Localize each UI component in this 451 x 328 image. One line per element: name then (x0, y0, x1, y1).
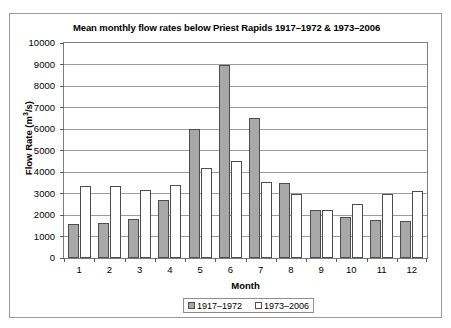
x-axis-tick-label-3: 3 (125, 264, 155, 275)
x-axis-tick-label-8: 8 (276, 264, 306, 275)
legend-item-1973-2006: 1973–2006 (255, 301, 309, 311)
x-axis-tick-mark (306, 258, 307, 262)
x-axis-tick-label-7: 7 (246, 264, 276, 275)
x-axis-tick-mark (125, 258, 126, 262)
bar-month-9-series-2 (322, 210, 333, 258)
x-axis-tick-label-5: 5 (185, 264, 215, 275)
y-axis-tick-mark (60, 236, 64, 237)
y-axis-tick-mark (60, 86, 64, 87)
bar-month-11-series-1 (370, 220, 381, 258)
bar-month-2-series-2 (110, 186, 121, 258)
chart-figure: Mean monthly flow rates below Priest Rap… (9, 13, 442, 318)
y-axis-tick-mark (60, 215, 64, 216)
y-axis-tick-mark (60, 129, 64, 130)
y-axis-tick-label: 5000 (7, 146, 55, 156)
bar-month-3-series-1 (128, 219, 139, 258)
legend-swatch-icon-1973-2006 (255, 302, 262, 309)
x-axis-tick-mark (276, 258, 277, 262)
bar-month-4-series-1 (158, 200, 169, 258)
y-axis-label-exponent: 3 (22, 112, 29, 116)
x-axis-tick-label-12: 12 (397, 264, 427, 275)
y-axis-tick-label: 2000 (7, 210, 55, 220)
bar-month-9-series-1 (310, 210, 321, 258)
bar-month-10-series-1 (340, 217, 351, 258)
bar-month-3-series-2 (140, 190, 151, 258)
x-axis-tick-mark (155, 258, 156, 262)
y-axis-tick-mark (60, 150, 64, 151)
legend-label-1917-1972: 1917–1972 (197, 301, 242, 311)
y-axis-tick-label: 1000 (7, 232, 55, 242)
gridline (64, 150, 427, 151)
x-axis-label: Month (63, 280, 428, 291)
gridline (64, 129, 427, 130)
chart-legend: 1917–1972 1973–2006 (183, 298, 314, 313)
y-axis-tick-label: 9000 (7, 60, 55, 70)
bar-month-8-series-1 (279, 183, 290, 258)
bar-month-1-series-1 (68, 224, 79, 258)
x-axis-tick-mark (336, 258, 337, 262)
gridline (64, 64, 427, 65)
bar-month-1-series-2 (80, 186, 91, 258)
legend-label-1973-2006: 1973–2006 (264, 301, 309, 311)
bar-month-8-series-2 (291, 194, 302, 259)
x-axis-tick-mark (426, 258, 427, 262)
x-axis-tick-label-11: 11 (367, 264, 397, 275)
x-axis-tick-mark (367, 258, 368, 262)
gridline (64, 107, 427, 108)
gridline (64, 172, 427, 173)
y-axis-tick-mark (60, 193, 64, 194)
x-axis-tick-label-2: 2 (94, 264, 124, 275)
x-axis-tick-label-9: 9 (306, 264, 336, 275)
bar-month-7-series-1 (249, 118, 260, 258)
bar-month-2-series-1 (98, 223, 109, 258)
x-axis-tick-label-6: 6 (215, 264, 245, 275)
y-axis-tick-label: 6000 (7, 124, 55, 134)
bar-month-11-series-2 (382, 194, 393, 259)
bar-month-12-series-1 (400, 221, 411, 258)
legend-swatch-icon-1917-1972 (188, 302, 195, 309)
x-axis-tick-label-1: 1 (64, 264, 94, 275)
bar-month-12-series-2 (412, 191, 423, 258)
bar-month-7-series-2 (261, 182, 272, 258)
bar-month-6-series-2 (231, 161, 242, 258)
gridline (64, 86, 427, 87)
plot-area: 1000090008000700060005000400030002000100… (63, 42, 428, 259)
bar-month-6-series-1 (219, 65, 230, 259)
y-axis-tick-label: 0 (7, 253, 55, 263)
x-axis-tick-mark (64, 258, 65, 262)
x-axis-tick-mark (397, 258, 398, 262)
x-axis-tick-label-10: 10 (336, 264, 366, 275)
bar-month-5-series-2 (201, 168, 212, 258)
y-axis-tick-label: 8000 (7, 81, 55, 91)
chart-title: Mean monthly flow rates below Priest Rap… (10, 22, 443, 33)
bar-month-4-series-2 (170, 185, 181, 258)
x-axis-tick-label-4: 4 (155, 264, 185, 275)
x-axis-tick-mark (185, 258, 186, 262)
y-axis-tick-mark (60, 43, 64, 44)
y-axis-tick-mark (60, 107, 64, 108)
y-axis-tick-mark (60, 172, 64, 173)
y-axis-tick-label: 7000 (7, 103, 55, 113)
x-axis-tick-mark (246, 258, 247, 262)
y-axis-tick-label: 10000 (7, 38, 55, 48)
bar-month-10-series-2 (352, 204, 363, 258)
x-axis-tick-mark (94, 258, 95, 262)
x-axis-tick-mark (215, 258, 216, 262)
y-axis-tick-mark (60, 64, 64, 65)
bar-month-5-series-1 (189, 129, 200, 258)
legend-item-1917-1972: 1917–1972 (188, 301, 242, 311)
y-axis-tick-label: 4000 (7, 167, 55, 177)
y-axis-tick-label: 3000 (7, 189, 55, 199)
